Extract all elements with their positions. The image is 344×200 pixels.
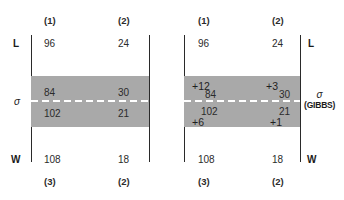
- right-panel-bulk-upper-value-2: 24: [272, 38, 283, 49]
- left-panel-top-header-1: (1): [44, 15, 56, 26]
- real-interface-panel: (1) (2) L W σ 96 24 84 30 102 21 108 18 …: [0, 0, 172, 200]
- left-panel-dividing-surface-line: [31, 100, 149, 102]
- right-panel-band-upper-value-2: 30: [279, 89, 290, 100]
- left-panel-sigma-label: σ: [14, 96, 20, 107]
- left-panel-top-header-2: (2): [118, 15, 130, 26]
- left-panel-band-lower-value-1: 102: [44, 108, 61, 119]
- left-panel-band-upper-value-2: 30: [118, 87, 129, 98]
- right-panel-bottom-header-2: (2): [272, 176, 284, 187]
- right-panel-liquid-label: L: [308, 38, 314, 49]
- left-panel-band-lower-value-2: 21: [118, 108, 129, 119]
- right-panel-bulk-lower-value-1: 108: [198, 154, 215, 165]
- right-panel-dividing-surface-line: [184, 100, 300, 102]
- right-panel-top-header-1: (1): [198, 15, 210, 26]
- left-panel-bulk-upper-value-1: 96: [44, 38, 55, 49]
- gibbs-surface-panel: (1) (2) L W σ (GIBBS) 96 24 +12 +3 84 30…: [172, 0, 344, 200]
- right-panel-sigma-gibbs-label: σ (GIBBS): [304, 89, 335, 110]
- right-panel-water-label: W: [307, 154, 316, 165]
- gibbs-dividing-surface-figure: (1) (2) L W σ 96 24 84 30 102 21 108 18 …: [0, 0, 344, 200]
- left-panel-bulk-upper-value-2: 24: [118, 38, 129, 49]
- left-panel-bulk-lower-value-1: 108: [44, 154, 61, 165]
- left-panel-right-rule: [149, 35, 150, 162]
- left-panel-water-label: W: [11, 154, 20, 165]
- right-panel-right-rule: [300, 35, 301, 162]
- right-panel-sigma-symbol: σ: [317, 89, 323, 100]
- left-panel-bottom-header-2: (2): [118, 176, 130, 187]
- right-panel-excess-lower-1: +6: [192, 117, 204, 128]
- left-panel-bottom-header-1: (3): [44, 176, 56, 187]
- right-panel-bulk-upper-value-1: 96: [198, 38, 209, 49]
- left-panel-bulk-lower-value-2: 18: [118, 154, 129, 165]
- right-panel-sigma-qualifier: (GIBBS): [304, 100, 335, 110]
- left-panel-band-upper-value-1: 84: [44, 87, 55, 98]
- right-panel-band-upper-value-1: 84: [205, 89, 216, 100]
- left-panel-liquid-label: L: [13, 38, 19, 49]
- right-panel-bottom-header-1: (3): [198, 176, 210, 187]
- right-panel-top-header-2: (2): [272, 15, 284, 26]
- right-panel-bulk-lower-value-2: 18: [272, 154, 283, 165]
- right-panel-excess-upper-2: +3: [266, 81, 278, 92]
- right-panel-excess-lower-2: +1: [270, 117, 282, 128]
